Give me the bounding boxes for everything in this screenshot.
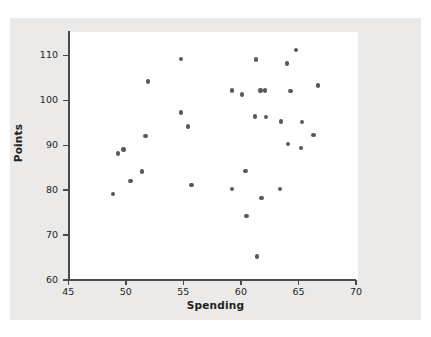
data-point bbox=[253, 114, 257, 118]
data-point bbox=[311, 133, 315, 137]
y-tick-label: 100 bbox=[32, 95, 58, 105]
data-point bbox=[240, 92, 244, 96]
x-tick-label: 50 bbox=[111, 287, 141, 297]
y-tick-label: 90 bbox=[32, 140, 58, 150]
x-tick-mark bbox=[355, 280, 356, 285]
data-point bbox=[279, 119, 283, 123]
y-tick-label: 110 bbox=[32, 50, 58, 60]
y-tick-mark bbox=[63, 100, 68, 101]
x-tick-label: 55 bbox=[168, 287, 198, 297]
scatter-plot-figure: 60708090100110 455055606570 Spending Poi… bbox=[0, 0, 431, 337]
data-point bbox=[316, 83, 320, 87]
data-point bbox=[121, 147, 125, 151]
y-tick-mark bbox=[63, 145, 68, 146]
y-axis-label: Points bbox=[12, 103, 24, 183]
y-tick-label: 70 bbox=[32, 230, 58, 240]
data-point bbox=[140, 169, 144, 173]
x-tick-mark bbox=[298, 280, 299, 285]
x-axis-line bbox=[68, 279, 356, 281]
data-point bbox=[255, 254, 259, 258]
x-tick-mark bbox=[125, 280, 126, 285]
x-tick-label: 45 bbox=[53, 287, 83, 297]
data-point bbox=[230, 88, 234, 92]
plot-area bbox=[68, 32, 358, 280]
data-point bbox=[285, 61, 289, 65]
data-point bbox=[146, 79, 150, 83]
x-tick-label: 70 bbox=[341, 287, 371, 297]
x-axis-label: Spending bbox=[0, 299, 431, 311]
y-tick-mark bbox=[63, 55, 68, 56]
data-point bbox=[254, 57, 258, 61]
data-point bbox=[116, 151, 120, 155]
data-point bbox=[288, 89, 292, 93]
data-point bbox=[179, 110, 183, 114]
data-point bbox=[243, 169, 247, 173]
y-axis-line bbox=[68, 31, 70, 280]
data-point bbox=[128, 179, 132, 183]
x-tick-mark bbox=[183, 280, 184, 285]
x-tick-label: 65 bbox=[283, 287, 313, 297]
y-tick-label: 80 bbox=[32, 185, 58, 195]
data-point bbox=[299, 146, 303, 150]
data-point bbox=[244, 214, 248, 218]
y-tick-mark bbox=[63, 234, 68, 235]
x-tick-label: 60 bbox=[226, 287, 256, 297]
x-tick-mark bbox=[240, 280, 241, 285]
y-tick-label: 60 bbox=[32, 275, 58, 285]
data-point bbox=[263, 88, 267, 92]
x-tick-mark bbox=[68, 280, 69, 285]
data-point bbox=[186, 124, 190, 128]
y-tick-mark bbox=[63, 189, 68, 190]
data-point bbox=[143, 134, 147, 138]
data-point bbox=[189, 183, 193, 187]
